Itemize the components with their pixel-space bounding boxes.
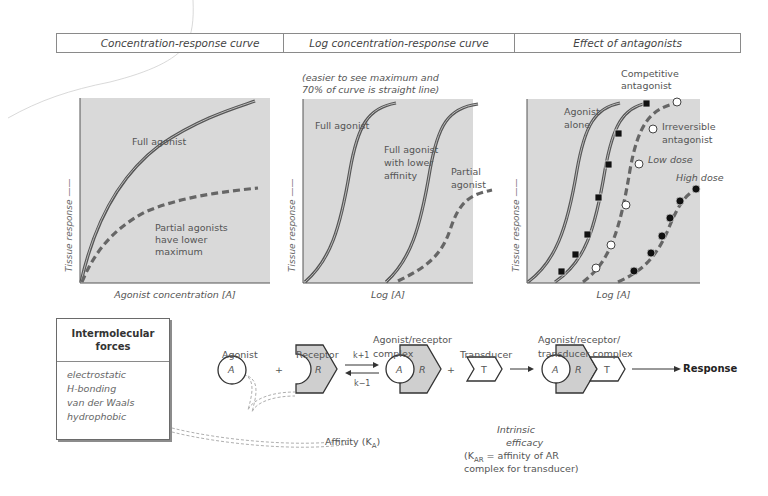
receptor-symbol-r: R <box>315 364 322 376</box>
kar-line-2: complex for transducer) <box>464 463 579 475</box>
label-agonist: Agonist <box>222 349 258 361</box>
complex-symbol-a: A <box>396 364 403 376</box>
label-art-complex-1: Agonist/receptor/ <box>538 334 620 346</box>
efficacy-line-2: efficacy <box>506 437 543 449</box>
efficacy-line-1: Intrinsic <box>497 424 535 436</box>
plus-sign-1: + <box>275 364 283 376</box>
affinity-label: Affinity (KA) <box>325 436 380 452</box>
art-symbol-r: R <box>575 364 582 376</box>
affinity-close: ) <box>376 436 380 447</box>
kar-text: = affinity of AR <box>484 450 559 461</box>
k-reverse-label: k−1 <box>354 378 370 390</box>
plus-sign-2: + <box>447 364 455 376</box>
label-receptor: Receptor <box>296 349 339 361</box>
binding-scheme <box>0 0 768 496</box>
affinity-text: Affinity (K <box>325 436 372 447</box>
complex-symbol-r: R <box>419 364 426 376</box>
art-symbol-t: T <box>604 364 610 376</box>
label-art-complex-2: transducer complex <box>538 348 633 360</box>
k-forward-label: k+1 <box>353 350 369 362</box>
label-ar-complex-2: complex <box>373 348 413 360</box>
label-ar-complex-1: Agonist/receptor <box>373 334 452 346</box>
agonist-symbol-a: A <box>228 364 235 376</box>
transducer-symbol-t: T <box>481 364 487 376</box>
art-symbol-a: A <box>552 364 559 376</box>
kar-open: (K <box>464 450 474 461</box>
label-transducer: Transducer <box>460 349 512 361</box>
response-label: Response <box>683 363 737 374</box>
